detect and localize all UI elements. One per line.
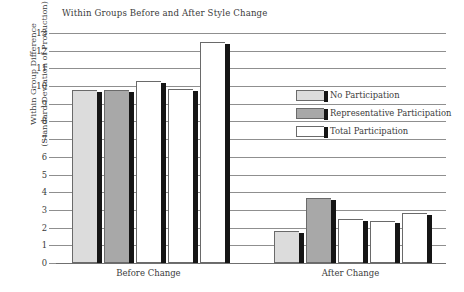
y-tick-mark [49, 33, 56, 34]
bar[interactable] [402, 213, 427, 263]
y-tick-label: 7 [0, 133, 56, 145]
bar[interactable] [338, 219, 363, 263]
y-tick-label: 8 [0, 115, 56, 127]
bar[interactable] [274, 231, 299, 263]
x-axis-line [56, 263, 446, 264]
y-tick-mark [49, 139, 56, 140]
y-tick-label: 10 [0, 80, 56, 92]
y-tick-label: 11 [0, 62, 56, 74]
y-tick-label: 12 [0, 45, 56, 57]
bar-shadow [427, 215, 432, 263]
bar-shadow [363, 221, 368, 263]
chart-figure: Within Groups Before and After Style Cha… [0, 0, 464, 292]
legend-swatch [296, 126, 324, 137]
y-tick-label: 2 [0, 222, 56, 234]
legend-swatch-shadow [324, 109, 328, 120]
y-tick-label: 3 [0, 204, 56, 216]
bar-shadow [161, 83, 166, 263]
bar-shadow [299, 233, 304, 263]
chart-legend: No ParticipationRepresentative Participa… [296, 86, 464, 140]
bar-shadow [193, 91, 198, 263]
chart-title: Within Groups Before and After Style Cha… [62, 8, 268, 18]
plot-area [56, 33, 446, 263]
gridline [56, 51, 446, 52]
bar[interactable] [136, 81, 161, 263]
y-tick-mark [49, 157, 56, 158]
legend-item[interactable]: No Participation [296, 86, 464, 104]
legend-label: Representative Participation [330, 108, 452, 118]
legend-swatch [296, 90, 324, 101]
y-tick-label: 13 [0, 27, 56, 39]
y-tick-label: 4 [0, 186, 56, 198]
y-tick-label: 0 [0, 257, 56, 269]
y-tick-mark [49, 263, 56, 264]
legend-label: Total Participation [330, 126, 408, 136]
bar[interactable] [200, 42, 225, 263]
legend-swatch-shadow [324, 127, 328, 138]
bar[interactable] [306, 198, 331, 263]
legend-item[interactable]: Representative Participation [296, 104, 464, 122]
bar[interactable] [370, 221, 395, 263]
x-axis-group-label: Before Change [89, 268, 209, 278]
legend-swatch [296, 108, 324, 119]
y-tick-mark [49, 51, 56, 52]
bar[interactable] [168, 89, 193, 263]
y-tick-mark [49, 86, 56, 87]
y-tick-label: 1 [0, 239, 56, 251]
bar-shadow [331, 200, 336, 263]
bar-shadow [225, 44, 230, 263]
y-axis-tick-labels: 131211109876543210 [0, 33, 56, 263]
y-tick-mark [49, 228, 56, 229]
legend-item[interactable]: Total Participation [296, 122, 464, 140]
gridline [56, 33, 446, 34]
y-tick-mark [49, 192, 56, 193]
y-tick-mark [49, 245, 56, 246]
legend-label: No Participation [330, 90, 400, 100]
y-tick-mark [49, 175, 56, 176]
bar-shadow [97, 92, 102, 263]
y-tick-mark [49, 104, 56, 105]
y-tick-mark [49, 68, 56, 69]
bar-shadow [129, 92, 134, 263]
bar[interactable] [104, 90, 129, 263]
x-axis-group-label: After Change [291, 268, 411, 278]
y-tick-label: 6 [0, 151, 56, 163]
gridline [56, 68, 446, 69]
y-tick-mark [49, 210, 56, 211]
y-tick-mark [49, 121, 56, 122]
legend-swatch-shadow [324, 91, 328, 102]
y-tick-label: 5 [0, 169, 56, 181]
bar[interactable] [72, 90, 97, 263]
bar-shadow [395, 223, 400, 263]
y-tick-label: 9 [0, 98, 56, 110]
